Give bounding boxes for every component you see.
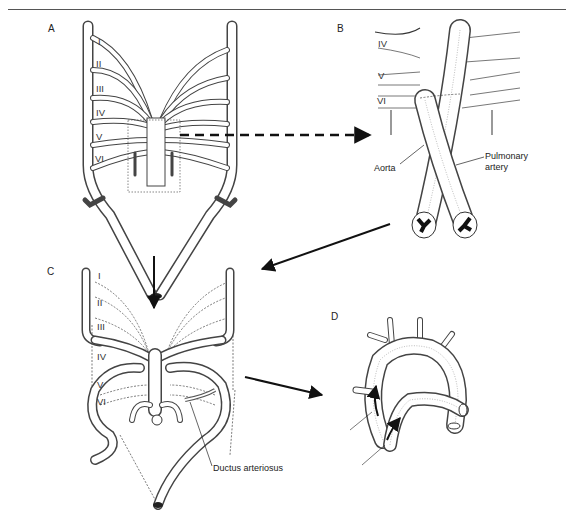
arch-label-i: I [98,36,101,47]
arch-label-v: V [96,131,103,142]
ductus-label: Ductus arteriosus [213,463,284,473]
panel-d: D [331,311,467,465]
panel-c-label: C [47,266,54,277]
c-arch-label-ii: II [97,297,102,308]
panel-b: B IV [337,23,529,238]
b-arch-label-iv: IV [378,38,388,49]
pulmonary-label-line1: Pulmonary [485,151,529,161]
pulmonary-leader [456,157,484,165]
panel-a-vessels [85,26,235,299]
c-arch-label-iii: III [97,321,105,332]
c-arch-label-v: V [97,379,104,390]
pulmonary-label-line2: artery [485,162,509,172]
arch-label-vi: VI [95,153,104,164]
b-arch-label-v: V [378,70,385,81]
arch-label-ii: II [96,58,101,69]
panel-a: A [48,23,235,299]
arch-label-iii: III [96,83,104,94]
arch-label-iv: IV [96,107,106,118]
aorta-label: Aorta [374,163,396,173]
b-arch-label-vi: VI [377,95,386,106]
c-arch-label-iv: IV [97,351,107,362]
panel-b-label: B [337,23,344,34]
panel-b-vessels [375,28,520,238]
aortic-arch-diagram: A [0,0,566,515]
panel-a-label: A [48,23,55,34]
arrow-c-to-d [245,377,322,395]
aorta-leader [400,145,424,164]
panel-d-label: D [331,311,338,322]
panel-d-vessels [350,320,467,465]
arrow-b-to-c [262,224,390,269]
panel-c: C [47,266,284,508]
c-arch-label-vi: VI [97,396,106,407]
c-arch-label-i: I [98,270,101,281]
